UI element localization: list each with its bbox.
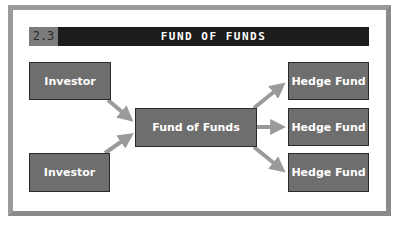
hedge-fund-box-1: Hedge Fund xyxy=(288,62,369,100)
figure-number: 2.3 xyxy=(29,27,58,46)
hedge-fund-box-3: Hedge Fund xyxy=(288,153,369,192)
investor-box-1: Investor xyxy=(29,62,111,100)
hedge-fund-box-2: Hedge Fund xyxy=(288,108,369,146)
figure-title: FUND OF FUNDS xyxy=(58,27,369,46)
fund-of-funds-box: Fund of Funds xyxy=(135,108,257,147)
figure-title-bar: 2.3 FUND OF FUNDS xyxy=(29,27,369,46)
investor-box-2: Investor xyxy=(29,153,110,192)
